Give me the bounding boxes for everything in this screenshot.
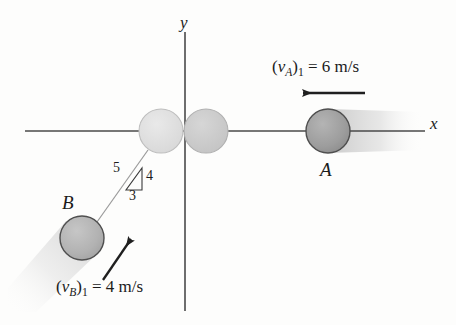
ball-b-label: B: [62, 193, 74, 212]
x-axis-label: x: [430, 115, 438, 132]
impact-path-line: [97, 150, 148, 222]
velocity-arrow-b: [103, 239, 131, 280]
slope-horizontal-label: 3: [129, 189, 136, 203]
velocity-label-b: (vB)1 = 4 m/s: [56, 278, 143, 299]
slope-vertical-label: 4: [146, 169, 153, 183]
y-axis-label: y: [180, 14, 188, 31]
velocity-b-equals: =: [88, 277, 106, 296]
slope-triangle: [126, 168, 142, 190]
ball-b: [60, 216, 104, 260]
velocity-b-value: 4 m/s: [106, 277, 143, 296]
figure-canvas: y x A B 5 4 3 (vA)1 = 6 m/s (vB)1 = 4 m/…: [0, 0, 456, 325]
velocity-a-equals: =: [304, 57, 322, 76]
ball-a: [306, 109, 350, 153]
contact-circle-b: [139, 109, 183, 153]
velocity-a-value: 6 m/s: [322, 57, 359, 76]
ball-a-label: A: [320, 160, 332, 179]
contact-circle-a: [184, 109, 228, 153]
velocity-label-a: (vA)1 = 6 m/s: [272, 58, 359, 79]
slope-hypotenuse-label: 5: [113, 161, 120, 175]
